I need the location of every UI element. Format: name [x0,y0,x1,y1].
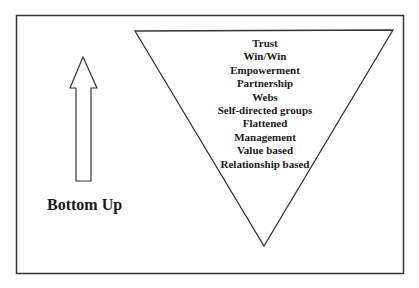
triangle-item: Empowerment [200,64,330,77]
triangle-item: Webs [200,91,330,104]
bottom-up-label: Bottom Up [47,196,122,214]
triangle-item: Partnership [200,77,330,90]
triangle-item: Trust [200,37,330,50]
up-arrow-icon [70,57,97,181]
triangle-item: Self-directed groups [200,104,330,117]
triangle-item: Value based [200,144,330,157]
triangle-item: Management [200,131,330,144]
triangle-item: Flattened [200,117,330,130]
diagram-canvas: Trust Win/Win Empowerment Partnership We… [0,0,419,288]
triangle-item-list: Trust Win/Win Empowerment Partnership We… [200,37,330,171]
triangle-item: Win/Win [200,50,330,63]
triangle-item: Relationship based [200,158,330,171]
